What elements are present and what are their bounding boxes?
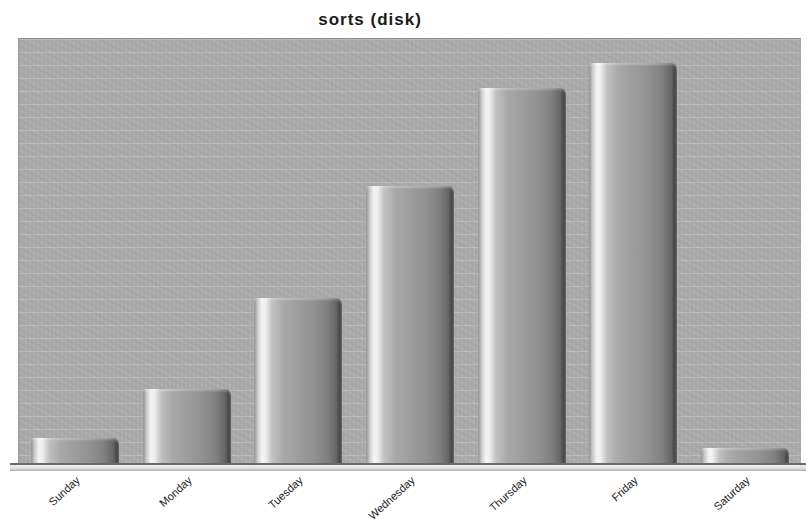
x-axis-label-sunday: Sunday bbox=[46, 474, 82, 508]
x-axis-label-wednesday: Wednesday bbox=[366, 474, 417, 522]
bar-sunday bbox=[31, 438, 119, 465]
chart-title: sorts (disk) bbox=[0, 10, 740, 30]
x-axis-labels: SundayMondayTuesdayWednesdayThursdayFrid… bbox=[18, 470, 800, 528]
x-axis-label-tuesday: Tuesday bbox=[266, 474, 305, 511]
x-axis-label-thursday: Thursday bbox=[487, 474, 529, 514]
x-axis-label-saturday: Saturday bbox=[711, 474, 752, 512]
chart-figure: sorts (disk) SundayMondayTuesdayWednesda… bbox=[0, 0, 811, 528]
bar-friday bbox=[589, 63, 677, 465]
plot-area bbox=[18, 38, 801, 465]
bar-thursday bbox=[478, 88, 566, 465]
x-axis-label-monday: Monday bbox=[156, 474, 193, 509]
x-axis-label-friday: Friday bbox=[610, 474, 641, 503]
bar-tuesday bbox=[254, 298, 342, 465]
bar-wednesday bbox=[366, 186, 454, 465]
bar-monday bbox=[143, 389, 231, 465]
